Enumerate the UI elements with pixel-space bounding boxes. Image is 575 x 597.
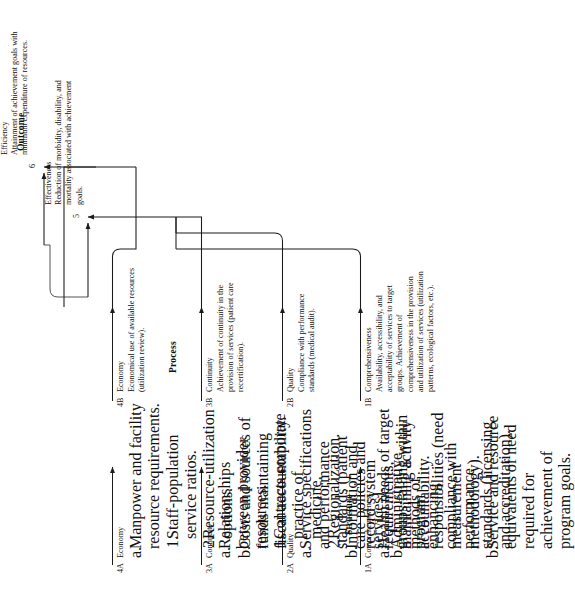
list-item: a. Manpower and facility resource requir… (127, 400, 163, 558)
process-3B-description: Achievement of continuity in the provisi… (216, 264, 247, 392)
structure-3A-code: 3A (205, 563, 215, 573)
list-marker: 1. (164, 536, 182, 548)
structure-1A-code: 1A (364, 563, 374, 573)
structure-4A-items: a. Manpower and facility resource requir… (127, 400, 291, 558)
process-3B-code: 3B (205, 398, 215, 407)
list-marker: b. (343, 546, 361, 558)
outcome-node-5[interactable]: Effectiveness Reduction of morbidity, di… (44, 79, 85, 205)
process-1B-text: Availability, accessibility, and accepta… (375, 264, 436, 392)
list-text: Manpower and facility resource requireme… (127, 403, 162, 549)
outcome-6-text: Attainment of achievement goals with min… (10, 29, 30, 155)
outcome-6-title: Efficiency (0, 29, 10, 155)
column-header-process: Process (168, 341, 178, 373)
list-text: Information and record system requiremen… (343, 421, 432, 549)
process-4B-description: Economical use of available resources (u… (127, 264, 147, 392)
process-1B-code: 1B (364, 398, 374, 407)
list-item: b. Costs and sources of funds maintainin… (236, 400, 290, 558)
structure-2A-code: 2A (286, 563, 296, 573)
process-4B-title: Economy (116, 361, 126, 392)
list-text: Costs and sources of funds maintaining f… (236, 417, 289, 549)
process-1B-description: Availability, accessibility, and accepta… (375, 264, 436, 392)
list-item: 2. Resource-utilization options. (200, 400, 236, 558)
list-item: 2. Regionalization. (325, 408, 343, 558)
list-text: Regionalization. (325, 434, 342, 539)
list-item: b. Information and record system require… (343, 408, 433, 558)
list-marker: 2. (200, 536, 218, 548)
process-2B-description: Compliance with performance standards (m… (297, 264, 317, 392)
process-3B-title: Continuity (205, 357, 215, 392)
outcome-6-code: 6 (28, 164, 38, 168)
list-text: Resource-utilization options. (200, 409, 235, 539)
outcome-node-6[interactable]: Efficiency Attainment of achievement goa… (0, 29, 31, 155)
outcome-5-title: Effectiveness (44, 79, 54, 205)
structure-4A-title: Economy (116, 527, 126, 558)
outcome-5-text: Reduction of morbidity, disability, and … (54, 79, 85, 205)
list-marker: b. (236, 546, 254, 558)
process-2B-title: Quality (286, 368, 296, 392)
list-marker: 2. (325, 536, 343, 548)
process-4B-code: 4B (116, 398, 126, 407)
process-2B-text: Compliance with performance standards (m… (297, 264, 317, 392)
list-item: 1. Staff-population service ratios. (164, 400, 200, 558)
list-marker: a. (127, 547, 145, 558)
process-2B-code: 2B (286, 398, 296, 407)
process-4B-text: Economical use of available resources (u… (127, 264, 147, 392)
list-text: Staff-population service ratios. (164, 434, 199, 539)
process-3B-text: Achievement of continuity in the provisi… (216, 264, 247, 392)
process-1B-title: Comprehensiveness (364, 327, 374, 392)
outcome-5-code: 5 (72, 214, 82, 218)
structure-4A-code: 4A (116, 563, 126, 573)
